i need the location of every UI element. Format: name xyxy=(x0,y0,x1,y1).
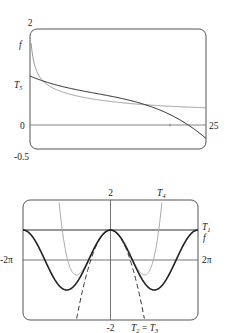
x-tick-left: -2π xyxy=(0,255,13,265)
y-tick-bottom: -2 xyxy=(107,323,115,333)
taylor-polynomials-figure: 2 f T5 0 25 -0.5 2 T4 T1 f -2π 2π -2 T2 … xyxy=(0,0,229,333)
plot-frame xyxy=(30,29,206,149)
x-tick-right: 2π xyxy=(202,255,212,265)
label-T2-T3: T2 = T3 xyxy=(131,323,159,333)
label-T1: T1 xyxy=(202,222,211,233)
chart-bottom: 2 T4 T1 f -2π 2π -2 T2 = T3 xyxy=(0,188,212,333)
label-T5: T5 xyxy=(14,80,23,91)
label-f: f xyxy=(203,233,207,243)
label-f: f xyxy=(19,40,23,50)
y-tick-top: 2 xyxy=(108,188,113,198)
chart-top: 2 f T5 0 25 -0.5 xyxy=(14,18,219,162)
series-T5 xyxy=(30,76,206,138)
y-tick-bottom: -0.5 xyxy=(14,152,29,162)
y-tick-zero: 0 xyxy=(20,121,25,131)
x-tick-right: 25 xyxy=(209,121,219,131)
label-T4: T4 xyxy=(157,188,166,199)
y-tick-top: 2 xyxy=(28,18,33,28)
